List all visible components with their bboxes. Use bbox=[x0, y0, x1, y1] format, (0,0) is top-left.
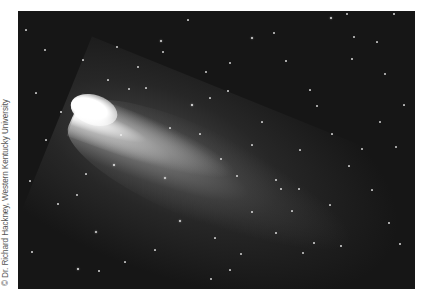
star bbox=[348, 165, 349, 166]
star bbox=[353, 36, 354, 37]
star bbox=[76, 194, 77, 195]
star bbox=[309, 89, 310, 90]
star bbox=[251, 211, 253, 213]
star bbox=[160, 40, 162, 42]
star bbox=[77, 268, 79, 270]
star bbox=[371, 189, 372, 190]
star bbox=[95, 231, 97, 233]
star bbox=[199, 133, 200, 134]
star bbox=[128, 88, 129, 89]
star bbox=[85, 173, 86, 174]
star bbox=[275, 179, 277, 181]
star bbox=[179, 220, 181, 222]
star bbox=[298, 188, 300, 190]
star bbox=[302, 252, 303, 253]
star bbox=[251, 37, 253, 39]
star bbox=[187, 19, 188, 20]
star bbox=[403, 104, 404, 105]
star bbox=[376, 41, 377, 42]
star bbox=[25, 29, 26, 30]
star bbox=[44, 49, 45, 50]
star bbox=[137, 66, 138, 67]
comet-photograph bbox=[18, 11, 415, 289]
star bbox=[57, 203, 59, 205]
star bbox=[35, 92, 36, 93]
star bbox=[251, 144, 252, 145]
star bbox=[60, 111, 62, 113]
star bbox=[236, 175, 237, 176]
star bbox=[299, 149, 300, 150]
star bbox=[82, 59, 83, 60]
star bbox=[329, 204, 330, 205]
star bbox=[280, 188, 282, 190]
star bbox=[229, 62, 230, 63]
star bbox=[388, 222, 390, 224]
star bbox=[169, 127, 170, 128]
star bbox=[313, 242, 315, 244]
star bbox=[275, 232, 277, 234]
star bbox=[31, 251, 33, 253]
star bbox=[154, 249, 155, 250]
star bbox=[361, 148, 362, 149]
star bbox=[45, 139, 46, 140]
star bbox=[98, 270, 100, 272]
star bbox=[330, 17, 332, 19]
star bbox=[29, 180, 30, 181]
star bbox=[240, 253, 241, 254]
star bbox=[145, 87, 146, 88]
star bbox=[399, 243, 401, 245]
star bbox=[205, 71, 206, 72]
star bbox=[395, 146, 396, 147]
star bbox=[120, 134, 121, 135]
star bbox=[351, 58, 353, 60]
star bbox=[220, 158, 221, 159]
star bbox=[346, 13, 347, 14]
star bbox=[261, 121, 262, 122]
photo-credit: © Dr. Richard Hackney, Western Kentucky … bbox=[1, 99, 11, 286]
star bbox=[316, 105, 317, 106]
star bbox=[124, 261, 125, 262]
star bbox=[209, 97, 210, 98]
star bbox=[107, 79, 108, 80]
star bbox=[331, 133, 332, 134]
star bbox=[214, 237, 215, 238]
star bbox=[340, 245, 342, 247]
star bbox=[164, 177, 166, 179]
star bbox=[229, 269, 230, 270]
star bbox=[384, 73, 385, 74]
star bbox=[116, 46, 117, 47]
star bbox=[162, 51, 163, 52]
star bbox=[273, 32, 274, 33]
star bbox=[393, 13, 395, 15]
star bbox=[291, 210, 292, 211]
star bbox=[285, 60, 287, 62]
star bbox=[210, 278, 211, 279]
star bbox=[227, 90, 229, 92]
star bbox=[379, 121, 380, 122]
